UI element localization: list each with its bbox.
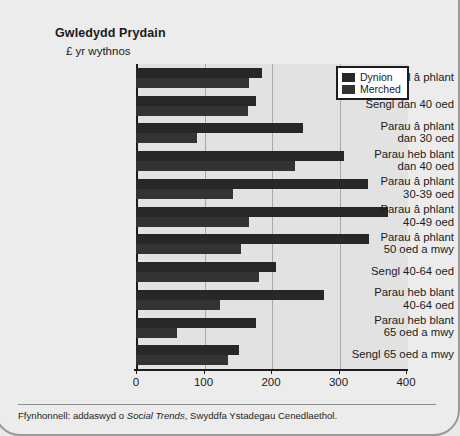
bar-merched [136, 78, 249, 88]
category-label: Parau heb blant65 oed a mwy [322, 314, 454, 339]
legend-swatch-dynion [342, 73, 355, 82]
x-axis-tick-label: 100 [194, 376, 213, 388]
legend-label-dynion: Dynion [360, 71, 393, 83]
x-axis-tick-label: 0 [133, 376, 139, 388]
category-label: Parau â phlant50 oed a mwy [322, 231, 454, 256]
bar-dynion [136, 345, 239, 355]
footnote-source: Ffynhonnell: addaswyd o Social Trends, S… [18, 410, 337, 421]
bar-dynion [136, 290, 324, 300]
bar-merched [136, 272, 259, 282]
category-label: Sengl 40-64 oed [322, 265, 454, 278]
bar-dynion [136, 123, 303, 133]
category-label: Sengl 65 oed a mwy [322, 348, 454, 361]
legend-label-merched: Merched [360, 83, 401, 95]
category-label: Parau heb blant40-64 oed [322, 286, 454, 311]
x-axis-tick [271, 369, 272, 374]
bar-dynion [136, 151, 344, 161]
chart-legend: Dynion Merched [336, 66, 409, 100]
legend-item-dynion: Dynion [342, 71, 401, 83]
bar-merched [136, 217, 249, 227]
x-axis-tick-label: 300 [329, 376, 348, 388]
chart-title: Gwledydd Prydain [55, 26, 166, 40]
bar-merched [136, 161, 295, 171]
footnote-prefix: Ffynhonnell: addaswyd o [18, 410, 127, 421]
x-axis-tick-label: 200 [261, 376, 280, 388]
category-label: Sengl dan 40 oed [322, 98, 454, 111]
category-label: Parau â phlant40-49 oed [322, 203, 454, 228]
bar-merched [136, 300, 220, 310]
x-axis-tick [204, 369, 205, 374]
bar-merched [136, 244, 241, 254]
x-axis-tick [136, 369, 137, 374]
footnote-divider [18, 404, 436, 405]
bar-dynion [136, 96, 256, 106]
bar-merched [136, 328, 177, 338]
legend-swatch-merched [342, 85, 355, 94]
category-label: Parau â phlant30-39 oed [322, 175, 454, 200]
category-label: Parau â phlantdan 30 oed [322, 120, 454, 145]
bar-merched [136, 355, 228, 365]
category-label: Parau heb blantdan 40 oed [322, 148, 454, 173]
bar-dynion [136, 68, 262, 78]
footnote-italic-title: Social Trends [127, 410, 185, 421]
footnote-suffix: , Swyddfa Ystadegau Cenedlaethol. [185, 410, 337, 421]
bar-merched [136, 189, 233, 199]
x-axis-tick-label: 400 [396, 376, 415, 388]
bar-dynion [136, 262, 276, 272]
x-axis-tick [339, 369, 340, 374]
bar-merched [136, 106, 248, 116]
legend-item-merched: Merched [342, 83, 401, 95]
x-axis-tick [406, 369, 407, 374]
bar-merched [136, 133, 197, 143]
chart-subtitle: £ yr wythnos [66, 45, 131, 57]
bar-dynion [136, 318, 256, 328]
